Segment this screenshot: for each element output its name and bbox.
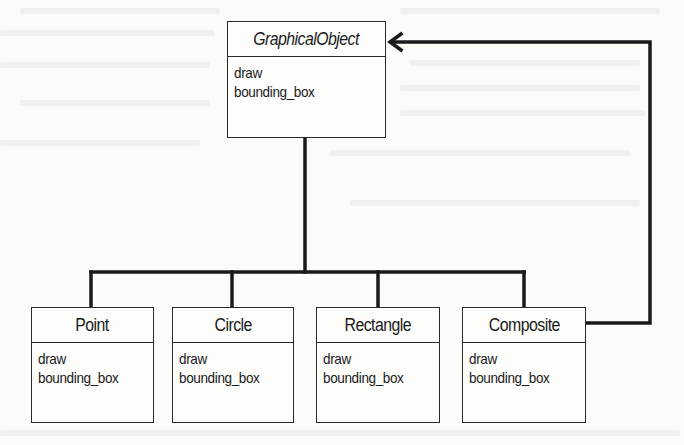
operation: bounding_box: [469, 368, 585, 387]
operations-list: draw bounding_box: [173, 343, 293, 387]
operation: draw: [234, 63, 385, 82]
composite-back-link: [392, 42, 650, 323]
operations-list: draw bounding_box: [32, 343, 153, 387]
class-name: GraphicalObject: [228, 22, 385, 57]
class-name: Point: [32, 308, 153, 343]
class-composite: Composite draw bounding_box: [462, 307, 586, 423]
operations-list: draw bounding_box: [317, 343, 439, 387]
operation: draw: [179, 349, 293, 368]
class-point: Point draw bounding_box: [31, 307, 154, 423]
operations-list: draw bounding_box: [463, 343, 585, 387]
operations-list: draw bounding_box: [228, 57, 385, 101]
class-name: Circle: [173, 308, 293, 343]
class-name: Rectangle: [317, 308, 439, 343]
operation: draw: [469, 349, 585, 368]
operation: bounding_box: [38, 368, 153, 387]
operation: draw: [323, 349, 439, 368]
operation: bounding_box: [234, 82, 385, 101]
class-rectangle: Rectangle draw bounding_box: [316, 307, 440, 423]
operation: bounding_box: [323, 368, 439, 387]
class-name: Composite: [463, 308, 585, 343]
class-circle: Circle draw bounding_box: [172, 307, 294, 423]
diagram-canvas: GraphicalObject draw bounding_box Point …: [0, 0, 684, 445]
operation: draw: [38, 349, 153, 368]
class-graphicalobject: GraphicalObject draw bounding_box: [227, 21, 386, 138]
operation: bounding_box: [179, 368, 293, 387]
